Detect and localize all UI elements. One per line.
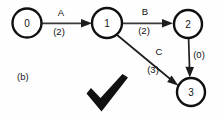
edge-a-weight: (2) xyxy=(53,26,65,37)
edge-b-arrowhead xyxy=(162,19,173,28)
node-2-label: 2 xyxy=(185,19,191,30)
figure-panel: A (2) B (2) C (3) (0) 0 xyxy=(0,0,223,117)
node-3[interactable]: 3 xyxy=(177,78,205,106)
edge-d-arrowhead xyxy=(185,67,194,78)
check-mark-path xyxy=(87,74,129,112)
edge-d: (0) xyxy=(185,39,204,78)
edge-c-weight: (3) xyxy=(147,64,159,75)
node-2[interactable]: 2 xyxy=(174,10,202,38)
edge-d-line xyxy=(189,39,190,71)
node-3-label: 3 xyxy=(188,87,194,98)
edge-a-label: A xyxy=(58,7,65,18)
edge-c-line xyxy=(117,35,173,81)
edge-b-label: B xyxy=(142,6,148,17)
edge-b-weight: (2) xyxy=(138,25,150,36)
node-1-label: 1 xyxy=(104,18,110,29)
node-0[interactable]: 0 xyxy=(13,9,42,38)
edge-d-weight: (0) xyxy=(193,49,205,60)
edge-a: A (2) xyxy=(42,7,92,37)
node-1[interactable]: 1 xyxy=(92,8,122,38)
edge-a-arrowhead xyxy=(81,19,92,28)
edge-c-label: C xyxy=(156,46,163,57)
panel-label: (b) xyxy=(17,71,29,82)
edge-b: B (2) xyxy=(122,6,173,36)
check-mark-icon xyxy=(87,74,129,112)
task-graph-diagram: A (2) B (2) C (3) (0) 0 xyxy=(0,0,223,117)
node-0-label: 0 xyxy=(24,18,30,29)
